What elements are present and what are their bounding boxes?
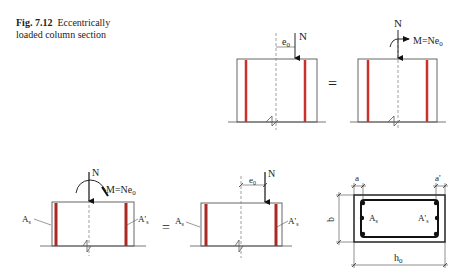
a-prime-label: a' [435,173,441,183]
panel-top-eccentric: e0 N [228,30,326,130]
h0-label: h0 [394,252,403,265]
equals-sign: = [328,75,337,92]
As-label: As [369,213,379,224]
As-prime-label: A's [288,216,299,227]
bar-As-top [361,201,365,205]
As-prime-label: A's [418,213,429,224]
bar-As-prime-mid [435,216,439,220]
equals-sign: = [162,220,170,235]
column-outline [201,203,282,246]
As-prime-leader [127,219,138,225]
N-label: N [92,167,99,178]
moment-label: M=Ne0 [413,35,443,48]
column-outline [52,202,134,246]
bar-As-prime-top [434,201,438,205]
column-outline [358,59,437,122]
e0-label: e0 [249,175,256,186]
bar-As-prime-bottom [434,232,438,236]
diagram: e0 N = N M=Ne0 N M=Ne0 As A's = [0,0,470,275]
As-leader [34,219,51,225]
As-prime-label: A's [138,214,149,225]
N-label: N [268,168,275,179]
moment-arrow [390,39,409,47]
moment-label: M=Ne0 [106,184,136,197]
N-label: N [299,30,307,42]
panel-bottom-eccentric: e0 N As A's [175,168,299,258]
bar-As-bottom [361,232,365,236]
As-leader [186,222,200,227]
section-outline [354,195,445,242]
panel-bottom-moment: N M=Ne0 As A's [22,167,149,256]
panel-cross-section: As A's a a' b h0 [325,173,448,268]
bar-As-mid [360,216,364,220]
As-label: As [175,216,185,227]
b-label: b [325,217,336,222]
N-label: N [394,17,402,29]
a-label: a [355,173,359,183]
panel-top-equivalent: N M=Ne0 [350,17,446,130]
As-label: As [22,214,32,225]
moment-arc [76,180,106,193]
